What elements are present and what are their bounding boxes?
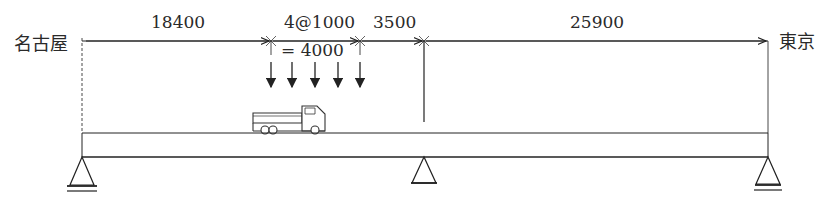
- dimension-line: [82, 36, 768, 46]
- beam-diagram: 名古屋 東京 18400 4@1000 3500 25900 = 4000: [0, 0, 836, 201]
- truck-icon: [253, 106, 325, 134]
- load-group-total: = 4000: [281, 42, 344, 59]
- right-support: [754, 157, 782, 190]
- left-support: [67, 157, 97, 191]
- dimension-label-span2: 4@1000: [284, 14, 355, 31]
- dimension-label-span1: 18400: [151, 14, 205, 31]
- point-loads: [271, 62, 360, 87]
- dimension-label-span4: 25900: [570, 14, 624, 31]
- right-end-label: 東京: [779, 33, 815, 51]
- left-end-label: 名古屋: [14, 35, 68, 53]
- middle-support: [411, 157, 437, 183]
- beam: [82, 133, 768, 157]
- extension-lines: [82, 38, 768, 133]
- diagram-drawing: [0, 0, 836, 201]
- dimension-label-span3: 3500: [373, 14, 416, 31]
